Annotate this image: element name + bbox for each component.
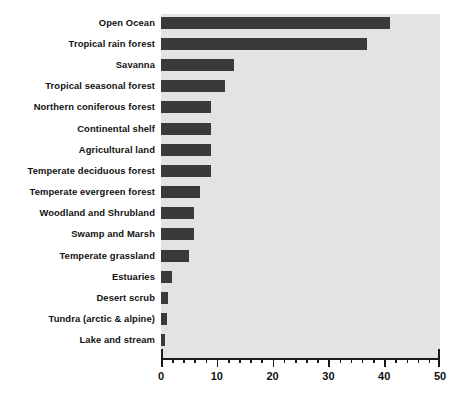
x-tick-minor — [373, 358, 375, 363]
bar-category-label: Swamp and Marsh — [0, 229, 155, 239]
bar-track — [161, 182, 440, 203]
x-axis: 01020304050 — [161, 358, 440, 416]
bar-row: Temperate evergreen forest — [0, 182, 463, 203]
x-tick-minor — [250, 358, 252, 363]
bar-track — [161, 97, 440, 118]
x-tick-label: 30 — [322, 370, 334, 382]
x-tick-label: 10 — [211, 370, 223, 382]
bar-row: Continental shelf — [0, 118, 463, 139]
bar-row: Savanna — [0, 54, 463, 75]
bar-row: Tropical seasonal forest — [0, 76, 463, 97]
bar — [161, 59, 234, 71]
x-tick-minor — [172, 358, 174, 363]
x-tick-minor — [407, 358, 409, 363]
x-tick-minor — [206, 358, 208, 363]
bar — [161, 101, 211, 113]
bar-category-label: Woodland and Shrubland — [0, 208, 155, 218]
bar-track — [161, 203, 440, 224]
bar-category-label: Estuaries — [0, 272, 155, 282]
x-tick-minor — [284, 358, 286, 363]
bar — [161, 250, 189, 262]
bar-track — [161, 330, 440, 351]
bar-row: Open Ocean — [0, 12, 463, 33]
x-tick-minor — [362, 358, 364, 363]
bar-category-label: Continental shelf — [0, 124, 155, 134]
bar-category-label: Tropical seasonal forest — [0, 81, 155, 91]
x-tick-label: 50 — [434, 370, 446, 382]
x-tick-minor — [306, 358, 308, 363]
bar-track — [161, 224, 440, 245]
bar — [161, 123, 211, 135]
x-tick-minor — [418, 358, 420, 363]
bar — [161, 292, 168, 304]
bar — [161, 17, 390, 29]
bar-track — [161, 309, 440, 330]
x-tick-major — [328, 358, 330, 367]
bar-track — [161, 76, 440, 97]
bar-row: Woodland and Shrubland — [0, 203, 463, 224]
x-tick-minor — [261, 358, 263, 363]
bar-category-label: Desert scrub — [0, 293, 155, 303]
x-axis-end-cap — [161, 349, 163, 360]
bar — [161, 38, 367, 50]
bar-row: Estuaries — [0, 266, 463, 287]
bar-track — [161, 287, 440, 308]
x-tick-minor — [228, 358, 230, 363]
bar-category-label: Temperate deciduous forest — [0, 166, 155, 176]
x-axis-end-cap — [438, 349, 440, 360]
x-tick-label: 20 — [266, 370, 278, 382]
bar-category-label: Northern coniferous forest — [0, 102, 155, 112]
bar-track — [161, 245, 440, 266]
bar-row: Agricultural land — [0, 139, 463, 160]
bar — [161, 228, 194, 240]
bar — [161, 80, 225, 92]
bar-track — [161, 54, 440, 75]
bar-category-label: Open Ocean — [0, 18, 155, 28]
bar-row: Swamp and Marsh — [0, 224, 463, 245]
x-tick-major — [273, 358, 275, 367]
bar-category-label: Agricultural land — [0, 145, 155, 155]
bar-row: Lake and stream — [0, 330, 463, 351]
bar-category-label: Lake and stream — [0, 335, 155, 345]
bar-track — [161, 160, 440, 181]
bar-track — [161, 266, 440, 287]
x-tick-minor — [194, 358, 196, 363]
axis-baseline — [161, 358, 440, 360]
bar-category-label: Temperate grassland — [0, 251, 155, 261]
bar — [161, 313, 167, 325]
bar-row: Tundra (arctic & alpine) — [0, 309, 463, 330]
x-tick-minor — [239, 358, 241, 363]
bar-track — [161, 118, 440, 139]
bar — [161, 165, 211, 177]
bar-track — [161, 139, 440, 160]
bar-category-label: Tropical rain forest — [0, 39, 155, 49]
bar-category-label: Temperate evergreen forest — [0, 187, 155, 197]
x-tick-minor — [317, 358, 319, 363]
bar-category-label: Savanna — [0, 60, 155, 70]
bar-row: Desert scrub — [0, 287, 463, 308]
bar-row: Temperate grassland — [0, 245, 463, 266]
bar-category-label: Tundra (arctic & alpine) — [0, 314, 155, 324]
x-tick-minor — [340, 358, 342, 363]
bar-rows: Open OceanTropical rain forestSavannaTro… — [0, 12, 463, 351]
bar-row: Temperate deciduous forest — [0, 160, 463, 181]
x-tick-label: 40 — [378, 370, 390, 382]
x-tick-major — [384, 358, 386, 367]
bar — [161, 207, 194, 219]
bar — [161, 334, 165, 346]
x-tick-major — [217, 358, 219, 367]
x-tick-minor — [295, 358, 297, 363]
bar — [161, 271, 172, 283]
bar — [161, 144, 211, 156]
bar-track — [161, 33, 440, 54]
bar-track — [161, 12, 440, 33]
x-tick-minor — [429, 358, 431, 363]
bar — [161, 186, 200, 198]
x-tick-label: 0 — [158, 370, 164, 382]
bar-chart: Open OceanTropical rain forestSavannaTro… — [0, 0, 463, 418]
x-tick-minor — [395, 358, 397, 363]
x-tick-minor — [183, 358, 185, 363]
x-tick-minor — [351, 358, 353, 363]
bar-row: Tropical rain forest — [0, 33, 463, 54]
bar-row: Northern coniferous forest — [0, 97, 463, 118]
